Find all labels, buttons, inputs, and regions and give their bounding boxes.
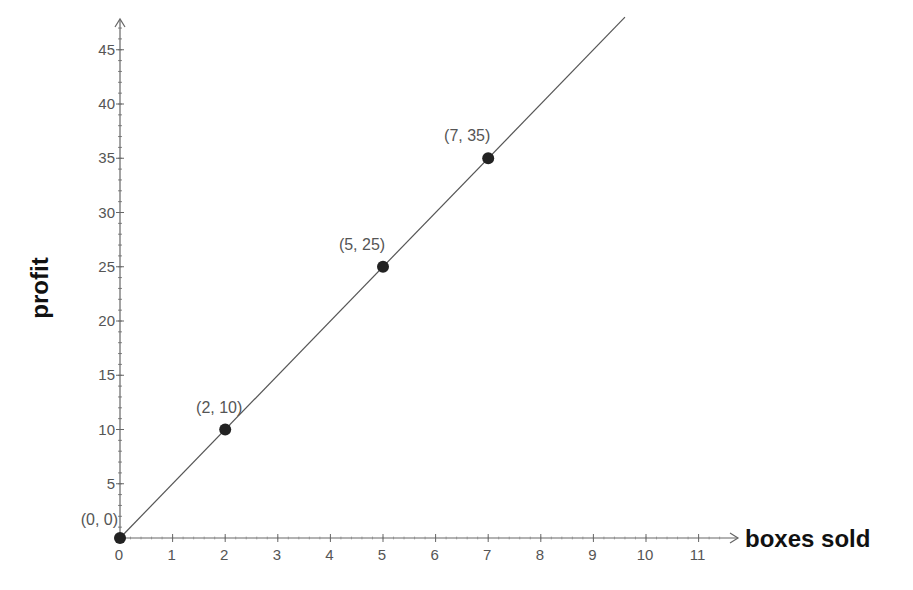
y-tick-label: 15: [98, 366, 115, 383]
y-tick-label: 5: [107, 475, 115, 492]
y-tick-label: 25: [98, 258, 115, 275]
x-tick-label: 10: [637, 546, 654, 563]
x-tick-label: 0: [115, 546, 123, 563]
y-tick-label: 20: [98, 312, 115, 329]
data-point: [114, 532, 126, 544]
profit-chart: 51015202530354045 01234567891011 (0, 0)(…: [0, 0, 913, 590]
profit-line: [120, 17, 625, 538]
x-tick-label: 3: [273, 546, 281, 563]
x-tick-label: 9: [588, 546, 596, 563]
y-tick-label: 45: [98, 41, 115, 58]
x-tick-label: 1: [167, 546, 175, 563]
point-label: (0, 0): [81, 511, 118, 528]
data-points: (0, 0)(2, 10)(5, 25)(7, 35): [81, 127, 495, 544]
x-tick-label: 5: [378, 546, 386, 563]
x-tick-label: 8: [536, 546, 544, 563]
x-axis-title: boxes sold: [745, 525, 870, 552]
x-tick-label: 2: [220, 546, 228, 563]
y-axis-title: profit: [26, 257, 53, 318]
x-tick-label: 11: [690, 546, 706, 563]
x-tick-label: 4: [325, 546, 333, 563]
point-label: (5, 25): [339, 236, 385, 253]
data-point: [377, 261, 389, 273]
y-tick-label: 40: [98, 95, 115, 112]
x-tick-label: 6: [430, 546, 438, 563]
x-tick-label: 7: [483, 546, 491, 563]
data-point: [482, 152, 494, 164]
point-label: (2, 10): [196, 399, 242, 416]
point-label: (7, 35): [444, 127, 490, 144]
data-point: [219, 424, 231, 436]
y-tick-label: 30: [98, 204, 115, 221]
y-tick-label: 10: [98, 421, 115, 438]
y-tick-label: 35: [98, 149, 115, 166]
